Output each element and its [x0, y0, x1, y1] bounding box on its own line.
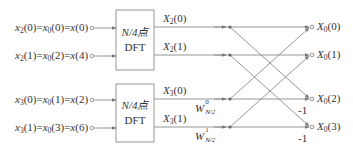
output-label-X0-3: X0(3) — [317, 121, 340, 134]
intermediate-label-X3-1: X3(1) — [163, 113, 186, 126]
branch-gain-minus-one-0: -1 — [298, 105, 307, 116]
input-branches — [90, 26, 116, 130]
output-label-X0-1: X0(1) — [317, 49, 340, 62]
input-label-2: x3(0)=x0(1)=x(2) — [15, 94, 88, 107]
twiddle-factor-W1: W1N/2 — [195, 130, 220, 144]
dft-block-top-label: N/4点 DFT — [116, 25, 154, 55]
dft-block-bottom-label: N/4点 DFT — [116, 98, 154, 128]
input-label-0: x2(0)=x0(0)=x(0) — [15, 22, 88, 35]
input-label-3: x3(1)=x0(3)=x(6) — [15, 122, 88, 135]
output-label-X0-0: X0(0) — [317, 21, 340, 34]
intermediate-label-X3-0: X3(0) — [163, 85, 186, 98]
branch-gain-minus-one-1: -1 — [298, 133, 307, 144]
butterfly-nodes — [228, 25, 231, 128]
input-label-1: x2(1)=x0(2)=x(4) — [15, 50, 88, 63]
twiddle-factor-W0: W0N/2 — [195, 102, 220, 116]
intermediate-label-X2-1: X2(1) — [163, 41, 186, 54]
intermediate-label-X2-0: X2(0) — [163, 13, 186, 26]
output-label-X0-2: X0(2) — [317, 93, 340, 106]
